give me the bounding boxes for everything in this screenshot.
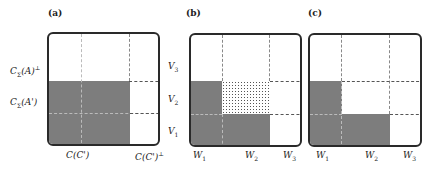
panel-b-hline-1	[270, 81, 302, 82]
panel-a-y-label-orth: CΣ(A)⊥	[10, 64, 40, 78]
panel-b-dotted-region	[222, 81, 270, 114]
panel-b-y-label-v1: V1	[168, 126, 178, 138]
panel-b-hline-2	[191, 114, 222, 115]
panel-a-hline-2b	[130, 113, 160, 114]
panel-c-vline-1	[341, 35, 342, 81]
panel-a-x-label-col: C(C')	[66, 150, 89, 160]
panel-a-y-label-range: CΣ(A')	[10, 97, 37, 109]
panel-c-hline-2	[310, 114, 342, 115]
panel-c-label: (c)	[308, 8, 322, 18]
panel-a-hline-1	[129, 81, 160, 82]
panel-a-label: (a)	[48, 8, 62, 18]
panel-c-hline-1	[342, 81, 422, 82]
panel-b-vline-1	[222, 35, 223, 81]
panel-b-box	[189, 33, 302, 147]
panel-b-vline-2	[269, 35, 270, 81]
panel-a-vline-2	[129, 34, 130, 81]
panel-a-box	[47, 32, 160, 146]
panel-b-x-label-w1: W1	[193, 150, 206, 162]
panel-a-x-label-col-orth: C(C')⊥	[135, 150, 164, 162]
panel-c-vline-2	[389, 35, 390, 114]
panel-c-x-label-w1: W1	[316, 150, 329, 162]
panel-a-vline-1	[81, 34, 82, 146]
panel-c-box	[308, 33, 422, 147]
panel-b-vline-1b	[222, 114, 223, 147]
panel-c-x-label-w2: W2	[365, 150, 378, 162]
panel-b-hline-2b	[270, 114, 302, 115]
panel-c-fill-bottom	[342, 114, 390, 147]
panel-b-x-label-w3: W3	[283, 150, 296, 162]
panel-b-x-label-w2: W2	[245, 150, 258, 162]
panel-b-y-label-v2: V2	[168, 94, 178, 106]
panel-b-label: (b)	[186, 8, 201, 18]
panel-c-x-label-w3: W3	[403, 150, 416, 162]
panel-c-hline-2b	[390, 114, 422, 115]
panel-b-y-label-v3: V3	[168, 61, 178, 73]
